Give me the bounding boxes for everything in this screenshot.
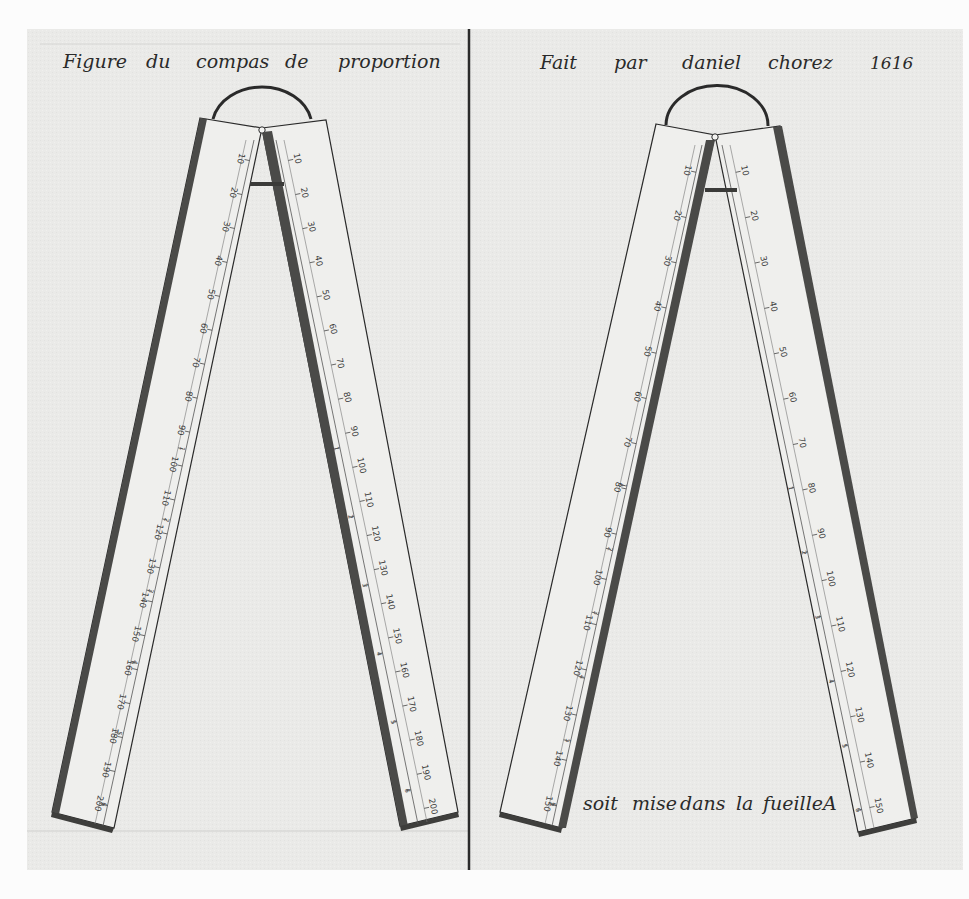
caption-word: chorez <box>768 51 834 73</box>
crossbar <box>705 188 737 192</box>
note-word: soit <box>583 792 618 814</box>
caption-word: par <box>614 51 648 73</box>
note-word: la <box>736 792 753 814</box>
engraving-plate: Figure du compas de proportion <box>0 0 969 899</box>
note-word: mise <box>632 792 677 814</box>
note-word: A <box>821 792 837 814</box>
caption-word: de <box>285 50 308 72</box>
pivot-icon <box>712 134 718 140</box>
caption-word: daniel <box>682 51 741 73</box>
caption-word: Figure <box>62 50 127 72</box>
caption-word: proportion <box>338 50 441 72</box>
caption-year: 1616 <box>870 53 913 73</box>
crossbar <box>250 182 284 186</box>
pivot-icon <box>259 127 265 133</box>
caption-word: Fait <box>539 51 577 73</box>
caption-word: compas <box>196 50 270 72</box>
caption-word: du <box>146 50 170 72</box>
left-caption: Figure du compas de proportion <box>62 50 441 72</box>
note-word: dans <box>680 792 726 814</box>
note-word: fueille <box>761 792 823 814</box>
